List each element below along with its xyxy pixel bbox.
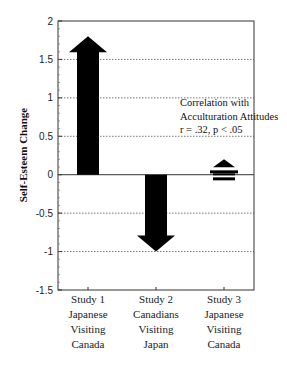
y-tick-label: -0.5 — [36, 208, 54, 219]
x-category-label: Japanese — [204, 308, 243, 320]
annotation-line: r = .32, p < .05 — [180, 124, 243, 135]
x-category-label: Canada — [72, 338, 105, 350]
y-tick-label: 1.5 — [39, 54, 53, 65]
y-tick-label: 0.5 — [39, 131, 53, 142]
x-axis-labels: Study 1JapaneseVisitingCanadaStudy 2Cana… — [68, 293, 243, 350]
arrow-study-1 — [69, 36, 107, 174]
y-tick-label: -1 — [44, 246, 53, 257]
annotation: Correlation withAcculturation Attitudesr… — [180, 97, 278, 135]
x-category-label: Japan — [143, 338, 169, 350]
arrow-study-3 — [213, 159, 235, 167]
x-category-label: Visiting — [139, 323, 174, 335]
x-category-label: Study 3 — [207, 293, 241, 305]
y-tick-label: 2 — [47, 16, 53, 27]
y-tick-label: 0 — [47, 169, 53, 180]
x-category-label: Canadians — [133, 308, 179, 320]
x-category-label: Study 2 — [139, 293, 173, 305]
x-category-label: Canada — [208, 338, 241, 350]
chart: 21.510.50-0.5-1-1.5 Study 1JapaneseVisit… — [0, 0, 287, 368]
x-category-label: Visiting — [207, 323, 242, 335]
x-category-label: Visiting — [71, 323, 106, 335]
x-category-label: Japanese — [68, 308, 107, 320]
annotation-line: Correlation with — [180, 97, 250, 108]
y-tick-label: 1 — [47, 92, 53, 103]
y-axis-label: Self-Esteem Change — [17, 108, 29, 203]
annotation-line: Acculturation Attitudes — [180, 111, 278, 122]
x-category-label: Study 1 — [71, 293, 105, 305]
y-tick-label: -1.5 — [36, 285, 54, 296]
